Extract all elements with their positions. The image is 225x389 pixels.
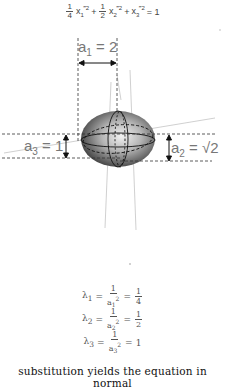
lambda1-equation: λ1 = 1a12 = 14	[0, 285, 225, 308]
lambda2-equation: λ2 = 1a22 = 12	[0, 308, 225, 331]
stray-dot	[129, 263, 131, 265]
body-text-line: substitution yields the equation in norm…	[0, 365, 225, 389]
axis-line-top	[117, 75, 121, 100]
lambda3-equation: λ3 = 1a32 = 1	[0, 331, 225, 354]
a2-label: a2 = √2	[171, 139, 219, 159]
eigenvalue-equations: λ1 = 1a12 = 14 λ2 = 1a22 = 12 λ3 = 1a32 …	[0, 285, 225, 354]
a1-label: a1 = 2	[78, 38, 117, 58]
a3-label: a3 = 1	[24, 137, 63, 157]
stray-dot	[219, 29, 221, 31]
ellipsoid-body	[81, 111, 155, 167]
